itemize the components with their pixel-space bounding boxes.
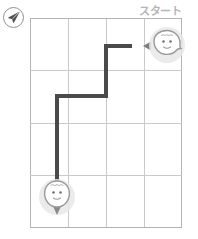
grid-line-h4 — [30, 227, 182, 228]
start-label-text: スタート — [139, 5, 181, 17]
grid-line-h1 — [30, 70, 182, 71]
goal-marker[interactable] — [35, 175, 79, 219]
game-stage: スタート スタート — [0, 0, 198, 239]
goal-marker-body — [45, 181, 70, 215]
start-marker-body — [154, 30, 181, 54]
grid-line-h2 — [30, 123, 182, 124]
start-label: スタート スタート — [139, 5, 181, 18]
start-marker[interactable] — [145, 23, 189, 67]
paper-plane-icon[interactable] — [3, 7, 24, 28]
grid-line-h0 — [30, 18, 182, 19]
